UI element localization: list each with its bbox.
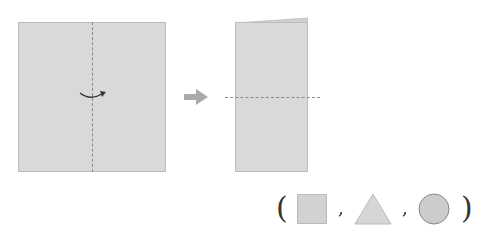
comma: ,: [338, 197, 344, 218]
triangle-option[interactable]: [354, 193, 392, 225]
close-paren: ): [461, 191, 473, 225]
horizontal-fold-line: [225, 97, 320, 98]
open-paren: (: [276, 191, 288, 225]
circle-option[interactable]: [417, 193, 451, 227]
comma: ,: [402, 197, 408, 218]
square-option[interactable]: [297, 194, 327, 224]
curved-fold-arrow-icon: [78, 88, 108, 104]
arrow-right-icon: [182, 88, 210, 106]
